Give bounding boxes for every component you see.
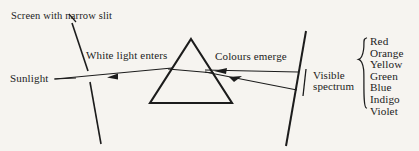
sunlight-label: Sunlight [10, 73, 49, 84]
visible-spectrum-label: Visible spectrum [313, 70, 354, 93]
colours-emerge-label: Colours emerge [215, 51, 287, 62]
spectrum-colour-item: Violet [370, 106, 404, 118]
emerging-ray-upper-arrowhead [214, 68, 227, 74]
white-light-enters-label: White light enters [86, 50, 168, 61]
spectrum-colour-item: Red [370, 36, 404, 48]
slit-screen-lower-segment [90, 82, 101, 144]
colour-list-brace [359, 38, 367, 108]
visible-spectrum-extent-tick [303, 69, 306, 96]
spectrum-colour-item: Indigo [370, 94, 404, 106]
slit-screen-upper-segment [72, 23, 88, 71]
screen-with-slit-label: Screen with narrow slit [11, 11, 112, 22]
diagram-line-art [0, 0, 419, 151]
visible-spectrum-label-line2: spectrum [313, 81, 354, 92]
spectrum-colour-list-items: Red Orange Yellow Green Blue Indigo Viol… [370, 36, 404, 117]
prism-dispersion-diagram: Screen with narrow slit White light ente… [0, 0, 419, 151]
spectrum-colour-list: Red Orange Yellow Green Blue Indigo Viol… [370, 36, 404, 117]
